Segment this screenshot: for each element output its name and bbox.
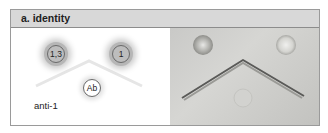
antigen-well-1-3: 1,3 <box>47 45 65 63</box>
well-label: 1 <box>119 49 124 59</box>
identity-diagram: 1,3 1 Ab anti-1 <box>11 28 169 125</box>
antigen-well-1: 1 <box>112 45 130 63</box>
antibody-label: anti-1 <box>34 100 58 111</box>
antibody-well: Ab <box>83 79 101 97</box>
well-label: Ab <box>87 83 97 93</box>
immunodiffusion-photo <box>170 28 319 125</box>
panel-header: a. identity <box>11 10 319 28</box>
well-label: 1,3 <box>50 49 62 59</box>
photo-image-icon <box>170 28 319 125</box>
identity-panel: a. identity 1,3 1 Ab anti-1 <box>10 9 320 126</box>
panel-title: a. identity <box>21 12 70 24</box>
